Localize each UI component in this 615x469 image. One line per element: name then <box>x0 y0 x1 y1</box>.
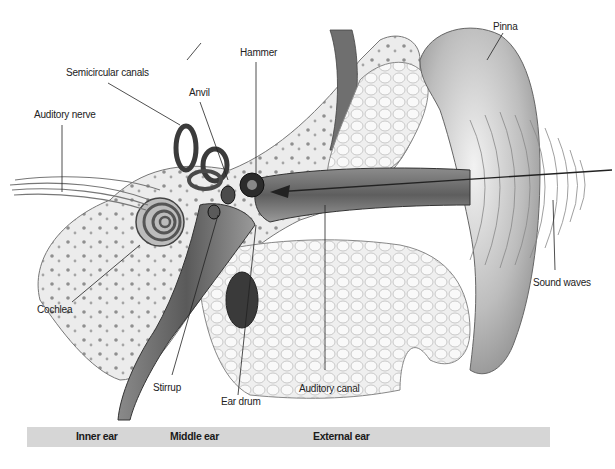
label-ear-drum: Ear drum <box>221 396 261 407</box>
stirrup-bone <box>208 205 220 219</box>
label-semicircular-canals: Semicircular canals <box>66 67 149 78</box>
label-auditory-canal: Auditory canal <box>299 383 360 394</box>
ear-anatomy-diagram: Auditory nerve Semicircular canals Anvil… <box>0 0 615 469</box>
region-bar: Inner ear Middle ear External ear <box>27 427 550 447</box>
label-stirrup: Stirrup <box>153 382 181 393</box>
semicircular-canal-1 <box>176 126 196 170</box>
region-inner-ear: Inner ear <box>76 430 118 442</box>
label-auditory-nerve: Auditory nerve <box>34 109 96 120</box>
region-external-ear: External ear <box>313 430 370 442</box>
label-hammer: Hammer <box>240 47 277 58</box>
anvil-bone <box>221 186 235 204</box>
label-cochlea: Cochlea <box>37 304 72 315</box>
hammer-highlight <box>247 180 257 190</box>
cochlea-shape <box>136 198 184 246</box>
region-middle-ear: Middle ear <box>170 430 219 442</box>
label-sound-waves: Sound waves <box>533 277 591 288</box>
label-anvil: Anvil <box>189 87 210 98</box>
label-pinna: Pinna <box>493 21 518 32</box>
ear-drum-shape <box>226 272 258 328</box>
